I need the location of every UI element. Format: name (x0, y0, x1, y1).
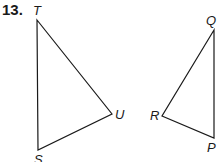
vertex-label-u: U (115, 108, 124, 121)
vertex-label-r: R (150, 109, 159, 122)
triangle-tus (37, 20, 112, 150)
vertex-label-t: T (33, 4, 41, 17)
triangles-diagram (0, 0, 222, 162)
vertex-label-p: P (207, 141, 216, 154)
triangle-qrp (162, 30, 214, 138)
vertex-label-s: S (34, 153, 43, 162)
vertex-label-q: Q (206, 14, 216, 27)
